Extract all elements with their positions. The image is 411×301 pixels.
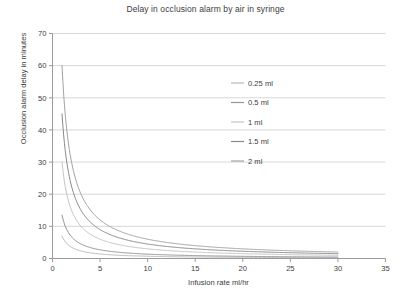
x-tick-label: 5 [98, 264, 102, 273]
legend-label: 2 ml [248, 157, 263, 166]
x-tick-label: 35 [381, 264, 389, 273]
legend-label: 1 ml [248, 118, 263, 127]
y-tick-label: 20 [38, 190, 46, 199]
legend-label: 1.5 ml [248, 137, 269, 146]
curve-1-ml [62, 162, 338, 255]
y-tick-label: 0 [42, 254, 46, 263]
x-tick-label: 20 [239, 264, 247, 273]
y-tick-label: 50 [38, 94, 46, 103]
x-tick-label: 15 [191, 264, 199, 273]
y-axis-ticks: 010203040506070 [38, 29, 52, 263]
x-tick-label: 10 [143, 264, 151, 273]
gridlines [53, 34, 386, 227]
chart-legend: 0.25 ml0.5 ml1 ml1.5 ml2 ml [231, 79, 273, 166]
y-tick-label: 60 [38, 61, 46, 70]
y-tick-label: 70 [38, 29, 46, 38]
y-tick-label: 40 [38, 126, 46, 135]
x-axis-ticks: 05101520253035 [50, 259, 389, 274]
chart-container: Delay in occlusion alarm by air in syrin… [0, 0, 411, 301]
y-tick-label: 30 [38, 158, 46, 167]
curve-2-ml [62, 66, 338, 252]
x-tick-label: 30 [334, 264, 342, 273]
y-tick-label: 10 [38, 222, 46, 231]
legend-label: 0.5 ml [248, 98, 269, 107]
curve-1-5-ml [62, 114, 338, 254]
legend-label: 0.25 ml [248, 79, 273, 88]
x-tick-label: 0 [50, 264, 54, 273]
axes [53, 34, 386, 259]
x-tick-label: 25 [286, 264, 294, 273]
plot-area: 010203040506070 05101520253035 0.25 ml0.… [0, 0, 411, 301]
